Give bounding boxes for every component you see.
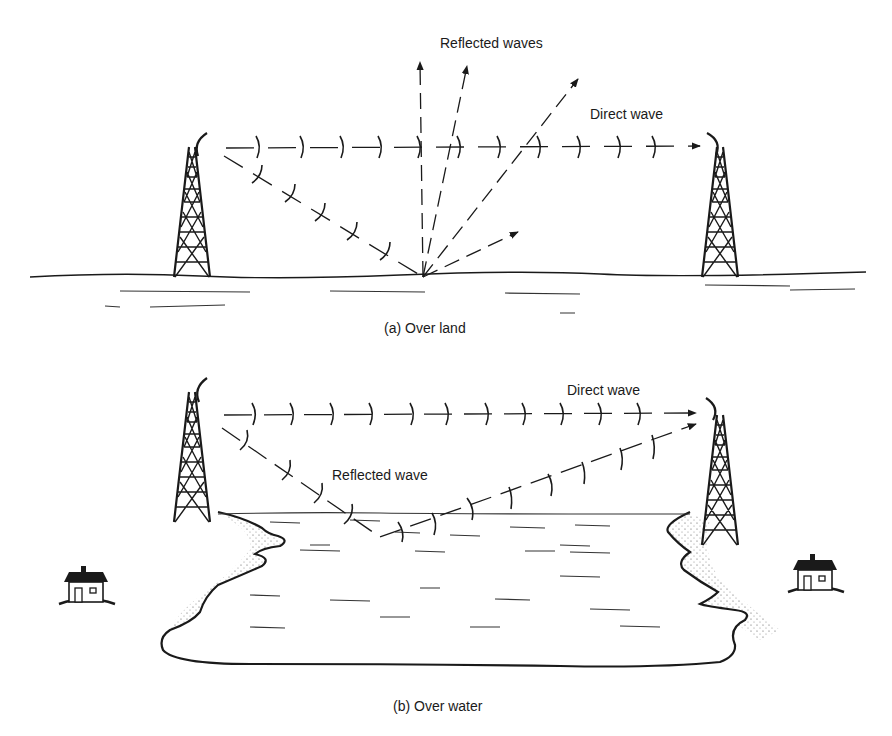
house-icon bbox=[59, 566, 115, 604]
antenna-dish-icon bbox=[706, 398, 715, 420]
reflected-waves-label: Reflected waves bbox=[440, 35, 543, 51]
reflected-waves-arrows bbox=[420, 62, 578, 277]
ground-line bbox=[30, 272, 866, 278]
panel-b-over-water bbox=[59, 378, 844, 667]
incident-wave-line bbox=[224, 156, 423, 277]
antenna-dish-icon bbox=[707, 133, 718, 155]
panel-b-caption: (b) Over water bbox=[393, 698, 482, 714]
direct-wave-arrow bbox=[224, 413, 696, 415]
panel-a-over-land bbox=[30, 62, 866, 313]
direct-wave-arrow bbox=[226, 146, 700, 148]
receive-tower-icon bbox=[702, 147, 738, 277]
reflected-wave-label: Reflected wave bbox=[332, 467, 428, 483]
propagation-diagram bbox=[0, 0, 892, 736]
direct-wave-label: Direct wave bbox=[567, 382, 640, 398]
transmit-tower-icon bbox=[174, 147, 210, 277]
antenna-dish-icon bbox=[197, 133, 207, 156]
antenna-dish-icon bbox=[197, 378, 207, 402]
ground-texture bbox=[105, 285, 855, 313]
panel-a-caption: (a) Over land bbox=[384, 320, 466, 336]
house-icon bbox=[788, 554, 844, 592]
transmit-tower-icon bbox=[174, 392, 210, 522]
direct-wave-label: Direct wave bbox=[590, 106, 663, 122]
